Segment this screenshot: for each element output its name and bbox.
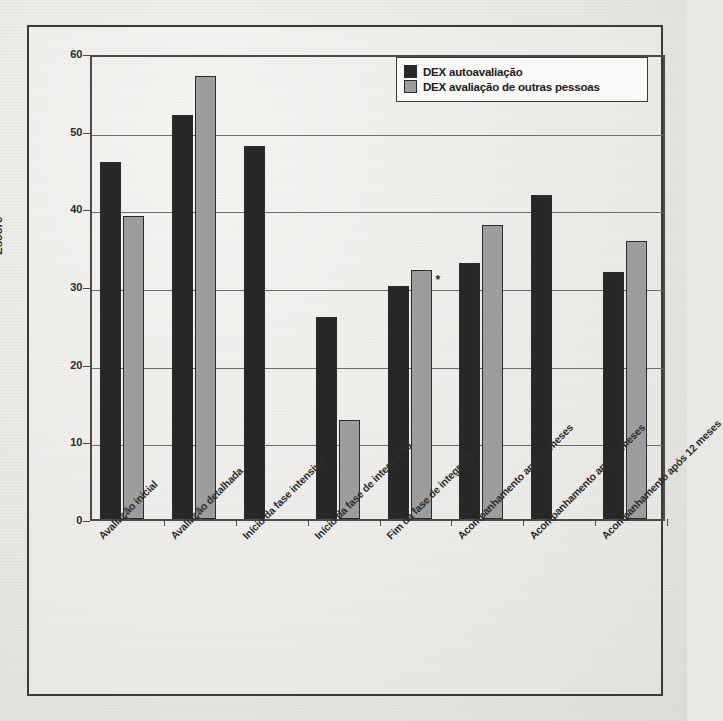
x-tick-mark [236, 519, 237, 526]
y-tick-label: 60 [42, 48, 82, 60]
bar [482, 225, 503, 519]
y-tick-label: 40 [42, 203, 82, 215]
legend-item: DEX autoavaliação [404, 65, 640, 78]
legend-label: DEX avaliação de outras pessoas [423, 81, 600, 93]
bar [316, 317, 337, 519]
x-tick-mark [595, 519, 596, 526]
y-tick-mark [83, 366, 90, 367]
y-tick-label: 30 [42, 281, 82, 293]
x-tick-mark [380, 519, 381, 526]
bar [172, 115, 193, 519]
legend-swatch-icon [404, 80, 417, 93]
legend-swatch-icon [404, 65, 417, 78]
significance-asterisk: * [436, 274, 441, 286]
y-tick-label: 0 [42, 514, 82, 526]
bar [195, 76, 216, 519]
bar [123, 216, 144, 519]
y-tick-mark [83, 133, 90, 134]
y-tick-mark [83, 55, 90, 56]
bar [100, 162, 121, 519]
y-tick-label: 20 [42, 359, 82, 371]
bar [626, 241, 647, 519]
y-tick-mark [83, 521, 90, 522]
y-tick-label: 10 [42, 436, 82, 448]
bar [388, 286, 409, 519]
x-tick-mark [667, 519, 668, 526]
y-tick-mark [83, 443, 90, 444]
plot-area [90, 55, 665, 521]
bar [411, 270, 432, 519]
bar [603, 272, 624, 519]
legend-item: DEX avaliação de outras pessoas [404, 80, 640, 93]
x-tick-mark [451, 519, 452, 526]
legend-label: DEX autoavaliação [423, 66, 523, 78]
y-axis-label: Escore [0, 217, 4, 255]
y-tick-label: 50 [42, 126, 82, 138]
bar [244, 146, 265, 519]
chart-legend: DEX autoavaliação DEX avaliação de outra… [396, 57, 648, 102]
x-tick-mark [164, 519, 165, 526]
y-tick-mark [83, 210, 90, 211]
x-tick-mark [308, 519, 309, 526]
bar [459, 263, 480, 519]
y-tick-mark [83, 288, 90, 289]
x-tick-mark [523, 519, 524, 526]
